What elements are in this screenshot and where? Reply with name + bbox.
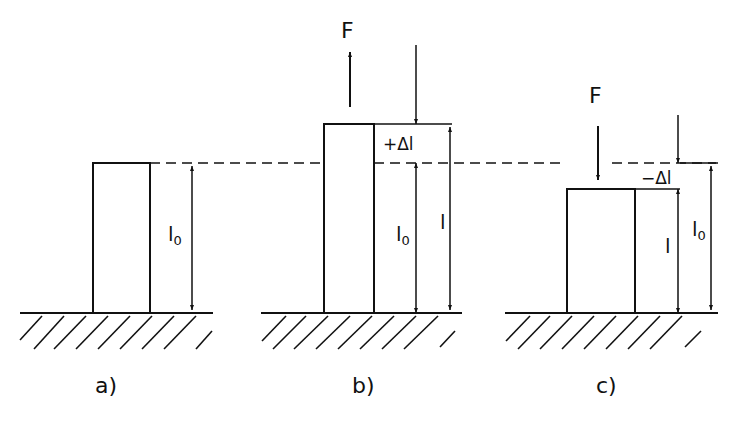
caption-b: b)	[352, 373, 375, 398]
label-l0-c: l0	[692, 217, 706, 243]
bar-compressed	[567, 189, 635, 313]
label-plus-delta-l: +Δl	[383, 134, 414, 154]
label-l0-a: l0	[168, 222, 182, 248]
ground-b	[261, 313, 462, 349]
label-l0-b: l0	[396, 222, 410, 248]
panel-c: F −Δl l l0 c)	[505, 83, 718, 398]
panel-a: l0 a)	[20, 163, 213, 398]
caption-a: a)	[95, 373, 117, 398]
label-minus-delta-l: −Δl	[641, 168, 672, 188]
bar-stretched	[324, 124, 374, 313]
caption-c: c)	[596, 373, 617, 398]
ground-a	[20, 313, 213, 349]
force-label-b: F	[341, 18, 354, 43]
deformation-diagram: l0 a) F +Δl l0 l	[0, 0, 731, 421]
ground-c	[505, 313, 718, 349]
bar-unloaded	[93, 163, 150, 313]
force-label-c: F	[589, 83, 602, 108]
label-l-b: l	[440, 210, 446, 234]
label-l-c: l	[665, 234, 671, 258]
panel-b: F +Δl l0 l b)	[261, 18, 462, 398]
